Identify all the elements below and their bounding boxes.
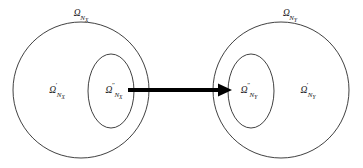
subscript-x: X — [85, 17, 88, 23]
subscript-y: Y — [254, 94, 257, 100]
prime-mark: ′ — [307, 80, 309, 88]
source-subregion-label: Ω″NX — [106, 80, 123, 101]
diagram-canvas: ΩNX Ω′NX Ω″NX ΩNY Ω″NY Ω′NY — [0, 0, 363, 168]
target-outer-region-label: ΩNY — [283, 3, 297, 24]
subscript-n: NX — [80, 14, 88, 22]
source-outer-region-label: ΩNX — [74, 3, 88, 24]
target-inner-region-label: Ω′NY — [300, 80, 315, 101]
source-inner-region-label: Ω′NX — [49, 80, 64, 101]
target-outer-region-circle — [213, 22, 349, 158]
subscript-n: NX — [57, 91, 65, 99]
mapping-arrow-head-icon — [218, 84, 232, 97]
subscript-x: X — [61, 94, 64, 100]
subscript-n: NY — [308, 91, 316, 99]
target-subregion-label: Ω″NY — [241, 80, 257, 101]
subscript-n: NX — [114, 91, 122, 99]
subscript-x: X — [119, 94, 122, 100]
double-prime-mark: ″ — [247, 80, 250, 88]
subscript-n: NY — [289, 14, 297, 22]
subscript-n: NY — [250, 91, 258, 99]
double-prime-mark: ″ — [112, 80, 115, 88]
prime-mark: ′ — [56, 80, 58, 88]
subscript-y: Y — [294, 17, 297, 23]
subscript-y: Y — [313, 94, 316, 100]
